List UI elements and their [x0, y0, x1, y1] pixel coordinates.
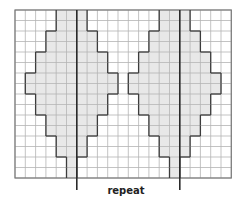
shaded-cell [46, 52, 56, 63]
shaded-cell [190, 73, 200, 84]
shaded-cell [170, 31, 180, 42]
shaded-cell [36, 73, 46, 84]
shaded-cell [77, 42, 87, 53]
shaded-cell [77, 94, 87, 105]
shaded-cell [87, 31, 97, 42]
shaded-cell [46, 126, 56, 137]
shaded-cell [170, 115, 180, 126]
shaded-cell [170, 126, 180, 137]
shaded-cell [190, 84, 200, 95]
shaded-cell [159, 10, 169, 21]
shaded-cell [56, 63, 66, 74]
shaded-cell [97, 105, 107, 116]
shaded-cell [200, 84, 210, 95]
shaded-cell [46, 94, 56, 105]
shaded-cell [170, 84, 180, 95]
shaded-cell [180, 115, 190, 126]
shaded-cell [67, 21, 77, 32]
shaded-cell [67, 84, 77, 95]
shaded-cell [180, 63, 190, 74]
shaded-cell [200, 63, 210, 74]
shaded-cell [149, 126, 159, 137]
shaded-cell [180, 84, 190, 95]
shaded-cell [200, 94, 210, 105]
shaded-cell [190, 115, 200, 126]
shaded-cell [46, 63, 56, 74]
shaded-cell [170, 73, 180, 84]
shaded-cell [67, 10, 77, 21]
shaded-cell [67, 73, 77, 84]
shaded-cell [180, 52, 190, 63]
shaded-cell [67, 157, 77, 168]
shaded-cell [25, 73, 35, 84]
shaded-cell [46, 73, 56, 84]
shaded-cell [46, 42, 56, 53]
shaded-cell [36, 84, 46, 95]
shaded-cell [159, 63, 169, 74]
shaded-cell [97, 52, 107, 63]
shaded-cell [87, 115, 97, 126]
shaded-cell [128, 84, 138, 95]
shaded-cell [190, 42, 200, 53]
shaded-cell [211, 84, 221, 95]
shaded-cell [77, 105, 87, 116]
shaded-cell [139, 105, 149, 116]
shaded-cell [200, 105, 210, 116]
shaded-cell [180, 136, 190, 147]
shaded-cell [149, 52, 159, 63]
shaded-cell [36, 105, 46, 116]
shaded-cell [190, 126, 200, 137]
shaded-cell [67, 147, 77, 158]
shaded-cell [56, 73, 66, 84]
shaded-cell [108, 73, 118, 84]
shaded-cell [46, 105, 56, 116]
shaded-cell [77, 115, 87, 126]
repeat-label: repeat [0, 185, 246, 196]
shaded-cell [77, 10, 87, 21]
shaded-cell [159, 136, 169, 147]
shaded-cell [139, 52, 149, 63]
shaded-cell [97, 63, 107, 74]
shaded-cell [87, 42, 97, 53]
shaded-cell [77, 147, 87, 158]
shaded-cell [149, 105, 159, 116]
shaded-cell [87, 73, 97, 84]
shaded-cell [77, 73, 87, 84]
shaded-cell [180, 42, 190, 53]
shaded-cell [159, 105, 169, 116]
shaded-cell [180, 73, 190, 84]
shaded-cell [200, 52, 210, 63]
shaded-cell [56, 21, 66, 32]
shaded-cell [77, 84, 87, 95]
shaded-cell [56, 105, 66, 116]
shaded-cell [159, 126, 169, 137]
shaded-cell [139, 84, 149, 95]
shaded-cell [56, 115, 66, 126]
shaded-cell [139, 63, 149, 74]
shaded-cell [56, 126, 66, 137]
shaded-cell [67, 168, 77, 179]
shaded-cell [67, 126, 77, 137]
shaded-cell [149, 73, 159, 84]
shaded-cell [180, 31, 190, 42]
shaded-cell [97, 73, 107, 84]
shaded-cell [77, 21, 87, 32]
shaded-cell [159, 42, 169, 53]
shaded-cell [190, 105, 200, 116]
shaded-cell [87, 105, 97, 116]
shaded-cell [180, 21, 190, 32]
shaded-cell [139, 73, 149, 84]
shaded-cell [77, 52, 87, 63]
shaded-cell [87, 52, 97, 63]
shaded-cell [159, 21, 169, 32]
shaded-cell [170, 157, 180, 168]
shaded-cell [67, 136, 77, 147]
shaded-cell [149, 115, 159, 126]
shaded-cell [190, 94, 200, 105]
shaded-cell [159, 31, 169, 42]
shaded-cell [67, 94, 77, 105]
shaded-cell [190, 31, 200, 42]
shaded-cell [149, 63, 159, 74]
shaded-cell [190, 52, 200, 63]
shaded-cell [170, 94, 180, 105]
